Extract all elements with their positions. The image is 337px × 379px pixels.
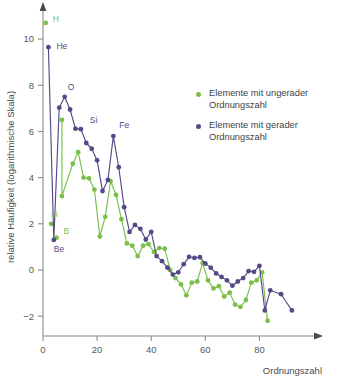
data-point — [203, 261, 208, 266]
data-point — [103, 214, 108, 219]
data-point — [238, 305, 243, 310]
element-label-fe: Fe — [119, 120, 129, 130]
abundance-chart: −20246810020406080 HHeOSiFeLiBeB relativ… — [0, 0, 337, 379]
data-point — [111, 134, 116, 139]
element-label-o: O — [68, 82, 75, 92]
data-point — [198, 255, 203, 260]
data-point — [114, 193, 119, 198]
data-point — [230, 283, 235, 288]
data-point — [249, 280, 254, 285]
data-point — [160, 259, 165, 264]
data-point — [187, 254, 192, 259]
x-axis-title: Ordnungszahl — [263, 365, 322, 376]
data-point — [92, 187, 97, 192]
data-point — [57, 105, 62, 110]
data-point — [208, 265, 213, 270]
x-tick-label: 20 — [92, 344, 103, 355]
legend-swatch-even-icon — [196, 124, 201, 129]
data-point — [254, 278, 259, 283]
data-point — [181, 262, 186, 267]
data-point — [149, 229, 154, 234]
element-annotations: HHeOSiFeLiBeB — [51, 14, 129, 254]
data-point — [179, 282, 184, 287]
data-point — [127, 229, 132, 234]
data-point — [143, 237, 148, 242]
data-point — [146, 242, 151, 247]
data-point — [106, 178, 111, 183]
data-point — [235, 279, 240, 284]
data-point — [138, 226, 143, 231]
legend-swatch-odd-icon — [196, 92, 201, 97]
legend-label-odd: Elemente mit ungerader Ordnungszahl — [209, 88, 336, 111]
series-layer — [43, 21, 294, 324]
data-point — [135, 254, 140, 259]
legend-label-even: Elemente mit gerader Ordnungszahl — [209, 120, 336, 143]
x-tick-label: 40 — [146, 344, 157, 355]
element-label-h: H — [53, 14, 59, 24]
data-point — [170, 272, 175, 277]
data-point — [211, 286, 216, 291]
x-tick-label: 0 — [40, 344, 45, 355]
data-point — [214, 271, 219, 276]
data-point — [268, 288, 273, 293]
y-tick-label: 4 — [29, 172, 34, 183]
data-point — [219, 275, 224, 280]
data-point — [252, 269, 257, 274]
data-point — [130, 243, 135, 248]
data-point — [133, 223, 138, 228]
data-point — [43, 21, 48, 26]
data-point — [154, 254, 159, 259]
data-point — [78, 127, 83, 132]
data-point — [141, 243, 146, 248]
x-tick-label: 80 — [254, 344, 265, 355]
element-label-he: He — [56, 41, 67, 51]
data-point — [97, 234, 102, 239]
data-point — [87, 176, 92, 181]
data-point — [192, 256, 197, 261]
data-point — [81, 175, 86, 180]
y-tick-label: 6 — [29, 126, 34, 137]
data-point — [265, 318, 270, 323]
y-tick-label: 0 — [29, 264, 34, 275]
data-point — [195, 279, 200, 284]
data-point — [116, 165, 121, 170]
element-label-be: Be — [54, 244, 65, 254]
y-tick-label: 10 — [23, 33, 34, 44]
data-point — [289, 308, 294, 313]
data-point — [51, 238, 56, 243]
y-tick-label: 2 — [29, 218, 34, 229]
element-label-si: Si — [90, 115, 98, 125]
data-point — [60, 194, 65, 199]
data-point — [206, 278, 211, 283]
data-point — [189, 280, 194, 285]
data-point — [76, 150, 81, 155]
x-tick-label: 60 — [200, 344, 211, 355]
data-point — [124, 241, 129, 246]
data-point — [279, 292, 284, 297]
element-label-li: Li — [51, 209, 58, 219]
data-point — [73, 126, 78, 131]
element-label-b: B — [64, 226, 70, 236]
data-point — [68, 107, 73, 112]
chart-legend: Elemente mit ungerader Ordnungszahl Elem… — [196, 88, 336, 152]
legend-item-even: Elemente mit gerader Ordnungszahl — [196, 120, 336, 143]
data-point — [184, 293, 189, 298]
data-point — [62, 94, 67, 99]
data-point — [216, 284, 221, 289]
data-point — [225, 278, 230, 283]
y-tick-label: −2 — [23, 311, 34, 322]
data-point — [227, 290, 232, 295]
data-point — [95, 158, 100, 163]
y-tick-label: 8 — [29, 80, 34, 91]
y-axis-title: relative Häufigkeit (logarithmische Skal… — [5, 91, 16, 263]
data-point — [257, 263, 262, 268]
data-point — [241, 276, 246, 281]
data-point — [100, 189, 105, 194]
data-point — [60, 118, 65, 123]
data-point — [46, 45, 51, 50]
legend-item-odd: Elemente mit ungerader Ordnungszahl — [196, 88, 336, 111]
data-point — [70, 161, 75, 166]
data-point — [157, 246, 162, 251]
data-point — [262, 308, 267, 313]
data-point — [243, 298, 248, 303]
